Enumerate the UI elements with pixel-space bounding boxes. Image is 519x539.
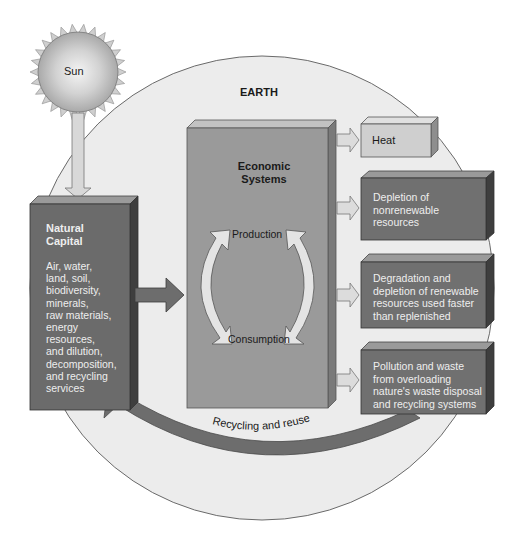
degradation-line: Degradation and	[373, 272, 479, 285]
depletion-label: Depletion of nonrenewable resources	[373, 191, 439, 229]
degradation-line: resources used faster	[373, 297, 479, 310]
economic-systems-title: Economic Systems	[234, 160, 294, 186]
natural-capital-title: Natural Capital	[46, 222, 84, 248]
natural-capital-items: Air, water, land, soil, biodiversity, mi…	[46, 260, 117, 394]
earth-label: EARTH	[240, 86, 278, 99]
sun-label: Sun	[64, 65, 84, 78]
pollution-line: from overloading	[373, 373, 482, 386]
consumption-label: Consumption	[228, 333, 290, 345]
degradation-line: than replenished	[373, 310, 479, 323]
natural-capital-item: minerals,	[46, 297, 117, 309]
natural-capital-item: and dilution,	[46, 345, 117, 357]
pollution-line: Pollution and waste	[373, 360, 482, 373]
pollution-line: and recycling systems	[373, 398, 482, 411]
depletion-line: nonrenewable	[373, 204, 439, 217]
degradation-line: depletion of renewable	[373, 285, 479, 298]
natural-capital-item: services	[46, 382, 117, 394]
natural-capital-item: land, soil,	[46, 272, 117, 284]
natural-capital-item: Air, water,	[46, 260, 117, 272]
natural-capital-item: decomposition,	[46, 358, 117, 370]
natural-capital-item: energy	[46, 321, 117, 333]
pollution-label: Pollution and waste from overloading nat…	[373, 360, 482, 410]
production-label: Production	[232, 228, 282, 240]
degradation-label: Degradation and depletion of renewable r…	[373, 272, 479, 322]
depletion-line: Depletion of	[373, 191, 439, 204]
natural-capital-item: raw materials,	[46, 309, 117, 321]
natural-capital-item: resources,	[46, 333, 117, 345]
economic-title-line1: Economic	[234, 160, 294, 173]
natural-capital-item: and recycling	[46, 370, 117, 382]
natural-capital-title-line2: Capital	[46, 235, 84, 248]
pollution-line: nature's waste disposal	[373, 385, 482, 398]
depletion-line: resources	[373, 216, 439, 229]
natural-capital-title-line1: Natural	[46, 222, 84, 235]
economic-title-line2: Systems	[234, 173, 294, 186]
natural-capital-item: biodiversity,	[46, 284, 117, 296]
heat-label: Heat	[372, 134, 395, 147]
